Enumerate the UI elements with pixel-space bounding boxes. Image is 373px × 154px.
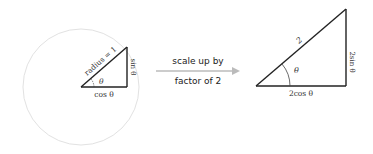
two-cos-label: 2cos θ xyxy=(289,89,314,98)
sin-label: sin θ xyxy=(129,59,137,76)
caption-line-2: factor of 2 xyxy=(175,76,222,86)
scaling-diagram: radius = 1 θ cos θ sin θ scale up by fac… xyxy=(0,0,373,154)
radius-label: radius = 1 xyxy=(82,45,118,78)
hypotenuse-label-2: 2 xyxy=(294,35,305,46)
arrow-head-icon xyxy=(232,67,240,75)
large-triangle xyxy=(256,9,346,86)
theta-label-small: θ xyxy=(99,77,104,86)
arrow xyxy=(156,67,240,75)
cos-label: cos θ xyxy=(94,90,114,99)
two-sin-label: 2sin θ xyxy=(348,51,356,72)
theta-label-large: θ xyxy=(294,66,299,75)
caption-line-1: scale up by xyxy=(172,56,224,66)
